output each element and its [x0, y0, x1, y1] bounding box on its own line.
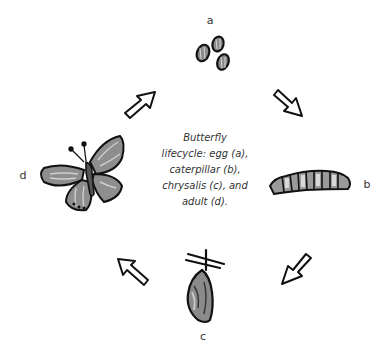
chrysalis-icon: [180, 248, 230, 328]
caption-line: caterpillar (b),: [145, 162, 265, 178]
stage-label-b: b: [362, 178, 372, 191]
arrow-down-right-icon: [272, 88, 312, 124]
caterpillar-icon: [266, 162, 356, 198]
stage-label-a: a: [205, 14, 215, 27]
eggs-icon: [190, 35, 240, 80]
diagram-caption: Butterfly lifecycle: egg (a), caterpilla…: [145, 130, 265, 210]
caption-line: chrysalis (c), and: [145, 178, 265, 194]
caption-line: adult (d).: [145, 194, 265, 210]
arrow-up-left-icon: [115, 256, 151, 288]
caption-line: lifecycle: egg (a),: [145, 146, 265, 162]
stage-label-d: d: [18, 169, 28, 182]
arrow-up-right-icon: [122, 90, 158, 122]
arrow-down-left-icon: [278, 252, 314, 292]
stage-label-c: c: [198, 330, 208, 343]
caption-line: Butterfly: [145, 130, 265, 146]
butterfly-icon: [36, 132, 128, 214]
